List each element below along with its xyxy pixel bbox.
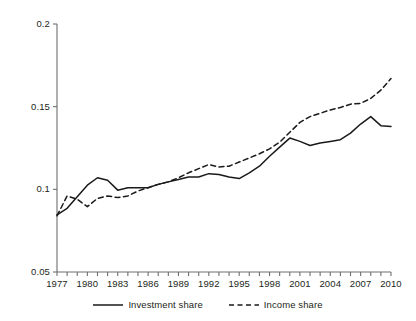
legend-swatch-solid <box>93 301 123 309</box>
legend-item-income-share: Income share <box>229 299 323 310</box>
y-axis-tick-label: 0.15 <box>6 101 50 112</box>
x-axis-tick-label: 2010 <box>371 278 411 289</box>
chart-legend: Investment share Income share <box>0 299 416 310</box>
plot-area <box>0 0 416 321</box>
series-line-income-share <box>57 79 391 216</box>
y-axis-ticks <box>53 24 57 272</box>
y-axis-tick-label: 0.05 <box>6 266 50 277</box>
legend-label-investment-share: Investment share <box>128 299 202 310</box>
legend-label-income-share: Income share <box>264 299 323 310</box>
x-axis-ticks <box>57 272 391 276</box>
legend-item-investment-share: Investment share <box>93 299 202 310</box>
legend-swatch-dashed <box>229 301 259 309</box>
series-line-investment-share <box>57 117 391 215</box>
y-axis-tick-label: 0.2 <box>6 18 50 29</box>
line-chart: 0.050.10.150.2 1977198019831986198919921… <box>0 0 416 321</box>
y-axis-tick-label: 0.1 <box>6 183 50 194</box>
data-series-group <box>57 79 391 216</box>
